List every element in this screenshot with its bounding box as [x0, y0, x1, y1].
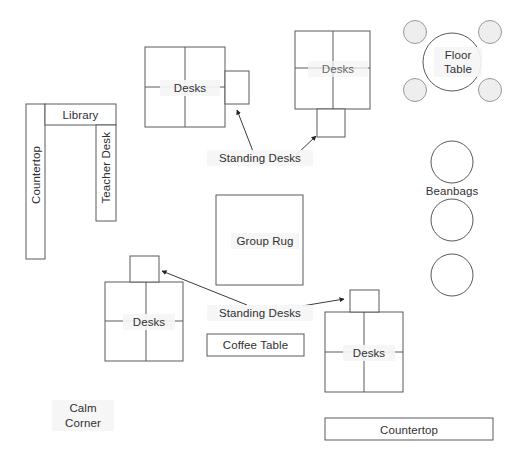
label-calm-corner-line1: Calm — [52, 400, 114, 416]
beanbag-3 — [431, 254, 473, 296]
arrow-to-standing-desk-top-left — [237, 110, 254, 154]
label-desks-top-right: Desks — [308, 61, 368, 77]
zone-desk-cluster-bottom-right — [325, 290, 403, 392]
zone-beanbags — [431, 141, 473, 296]
label-desks-bottom-right: Desks — [343, 345, 395, 361]
annotation-arrows-standing-desks-upper — [237, 110, 316, 155]
beanbag-1 — [431, 141, 473, 183]
label-standing-desks-upper: Standing Desks — [207, 150, 313, 166]
standing-desk-top-left — [225, 71, 249, 104]
stool-top-left — [404, 21, 427, 44]
zone-desk-cluster-bottom-left — [105, 256, 183, 361]
label-calm-corner-line2: Corner — [52, 415, 114, 431]
label-group-rug: Group Rug — [231, 233, 299, 249]
label-beanbags: Beanbags — [420, 184, 484, 198]
standing-desk-bottom-right — [350, 290, 379, 312]
standing-desk-top-right — [317, 109, 345, 137]
standing-desk-bottom-left — [130, 256, 159, 282]
label-desks-top-left: Desks — [160, 80, 220, 96]
label-desks-bottom-left: Desks — [123, 314, 175, 330]
label-floor-table-line2: Table — [434, 61, 482, 77]
label-library: Library — [45, 108, 116, 122]
stool-bottom-right — [479, 79, 502, 102]
label-standing-desks-lower: Standing Desks — [207, 305, 313, 321]
stool-top-right — [479, 21, 502, 44]
label-countertop-bottom: Countertop — [325, 423, 493, 437]
zone-desk-cluster-top-right — [295, 31, 370, 137]
classroom-floor-plan: Countertop Library Teacher Desk Desks De… — [0, 0, 517, 461]
beanbag-2 — [431, 199, 473, 241]
label-coffee-table: Coffee Table — [207, 338, 304, 352]
stool-bottom-left — [404, 79, 427, 102]
label-countertop-left: Countertop — [29, 146, 43, 204]
label-teacher-desk: Teacher Desk — [99, 132, 113, 204]
